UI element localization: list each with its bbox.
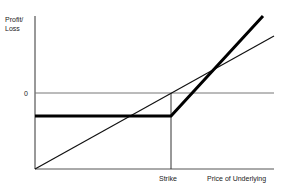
- zero-tick-label: 0: [24, 89, 28, 98]
- strike-tick-label: Strike: [159, 174, 177, 183]
- payoff-diagram: [0, 0, 288, 192]
- option-payoff-line: [35, 16, 263, 116]
- y-axis-label: Profit/ Loss: [5, 15, 33, 33]
- underlying-line: [35, 36, 274, 169]
- x-axis-label: Price of Underlying: [207, 174, 266, 183]
